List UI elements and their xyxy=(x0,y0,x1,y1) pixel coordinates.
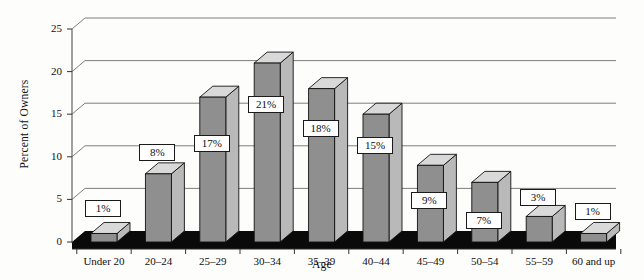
gridline-connector-25 xyxy=(72,18,85,29)
data-label-6: 9% xyxy=(411,192,447,209)
bar-1 xyxy=(145,163,184,242)
bar-3 xyxy=(254,52,293,242)
y-tick-label-0: 0 xyxy=(36,235,62,247)
data-label-9: 1% xyxy=(575,203,611,220)
bar-2 xyxy=(200,86,239,242)
data-label-2: 17% xyxy=(194,135,230,152)
gridline-connector-15 xyxy=(72,103,85,114)
data-label-3: 21% xyxy=(248,96,284,113)
data-label-0: 1% xyxy=(85,200,121,217)
data-label-7: 7% xyxy=(466,212,502,229)
y-axis-title: Percent of Owners xyxy=(18,64,30,184)
data-label-4: 18% xyxy=(303,120,339,137)
gridline-connector-5 xyxy=(72,188,85,199)
bar-4 xyxy=(309,78,348,242)
data-label-5: 15% xyxy=(357,137,393,154)
data-label-1: 8% xyxy=(139,144,175,161)
y-tick-label-25: 25 xyxy=(36,22,62,34)
gridline-connector-10 xyxy=(72,146,85,157)
y-tick-label-15: 15 xyxy=(36,107,62,119)
data-label-8: 3% xyxy=(520,189,556,206)
y-tick-label-10: 10 xyxy=(36,150,62,162)
y-tick-label-5: 5 xyxy=(36,192,62,204)
gridline-connector-20 xyxy=(72,61,85,72)
x-category-label-9: 60 and up xyxy=(550,255,638,267)
y-tick-label-20: 20 xyxy=(36,65,62,77)
bar-chart-figure: Percent of Owners Age 0510152025 Under 2… xyxy=(0,0,644,280)
bar-5 xyxy=(363,103,402,242)
bar-7 xyxy=(472,171,511,242)
bar-8 xyxy=(526,205,565,242)
chart-canvas xyxy=(0,0,644,280)
